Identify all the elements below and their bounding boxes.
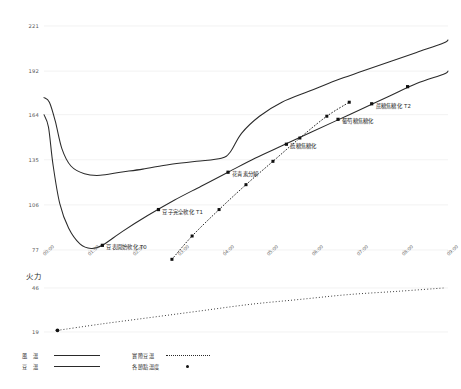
node-marker-6 [406, 85, 409, 88]
y-tick-label: 164 [28, 112, 39, 118]
node-marker-2 [226, 171, 229, 174]
y-tick-label: 192 [28, 68, 39, 74]
legend-label-air-temp: 風 溫 [22, 352, 54, 359]
legend-label-bean-temp: 豆 溫 [22, 363, 54, 370]
y-tick-label: 77 [32, 247, 39, 253]
fire-y-tick-label: 46 [32, 285, 39, 291]
actual-node-marker-7 [348, 101, 351, 104]
legend-item-actual-bean-temp: 實際豆溫 [132, 352, 210, 359]
node-marker-0 [101, 244, 104, 247]
node-annotation-label: 葡萄糖焦糖化 [342, 117, 374, 125]
main-axes [44, 26, 448, 250]
y-tick-label: 135 [28, 157, 39, 163]
node-marker-3 [285, 143, 288, 146]
fire-plot-svg [44, 288, 448, 332]
legend-swatch-solid-line [54, 355, 100, 356]
actual-node-marker-4 [271, 160, 274, 163]
actual-node-marker-2 [218, 208, 221, 211]
fire-power-marker [56, 328, 60, 332]
node-annotation-label: 花青素分解 [232, 170, 258, 178]
fire-panel-title: 火力 [26, 270, 42, 281]
legend-item-air-temp: 風 溫 [22, 352, 100, 359]
actual-node-marker-6 [325, 115, 328, 118]
node-annotation-label: 豆表開始軟化 T0 [106, 243, 147, 251]
legend-label-actual-bean-temp: 實際豆溫 [132, 352, 166, 359]
chart-canvas: 22119216413510677 00:0001:0002:0003:0004… [0, 0, 461, 389]
node-annotation-label: 蔗糖焦糖化 T2 [376, 102, 411, 110]
fire-axes [44, 288, 448, 332]
actual-node-marker-0 [170, 258, 173, 261]
node-marker-1 [157, 208, 160, 211]
legend-swatch-solid-line-2 [54, 366, 100, 367]
main-plot-svg [44, 26, 448, 250]
node-marker-5 [370, 102, 373, 105]
temperature-plot: 22119216413510677 00:0001:0002:0003:0004… [44, 26, 448, 250]
series-line-2 [172, 102, 349, 259]
y-tick-label: 221 [28, 23, 39, 29]
legend-label-node-temp: 各節點溫度 [132, 363, 166, 370]
actual-node-marker-1 [191, 235, 194, 238]
legend-swatch-dot-marker [186, 365, 189, 368]
node-annotation-label: 豆子完全軟化 T1 [162, 208, 203, 216]
legend-swatch-dotted-line [166, 355, 210, 356]
legend-item-bean-temp: 豆 溫 [22, 363, 100, 370]
legend-item-node-temp: 各節點溫度 [132, 363, 189, 370]
y-tick-label: 106 [28, 202, 39, 208]
actual-node-marker-3 [245, 183, 248, 186]
chart-legend: 風 溫 豆 溫 實際豆溫 各節點溫度 [22, 352, 282, 378]
node-annotation-label: 蔬糖焦糖化 [290, 142, 316, 150]
fire-power-plot: 4619 [44, 288, 448, 332]
node-marker-4 [336, 118, 339, 121]
fire-power-line [57, 288, 443, 330]
fire-y-tick-label: 19 [32, 329, 39, 335]
actual-node-marker-5 [298, 137, 301, 140]
